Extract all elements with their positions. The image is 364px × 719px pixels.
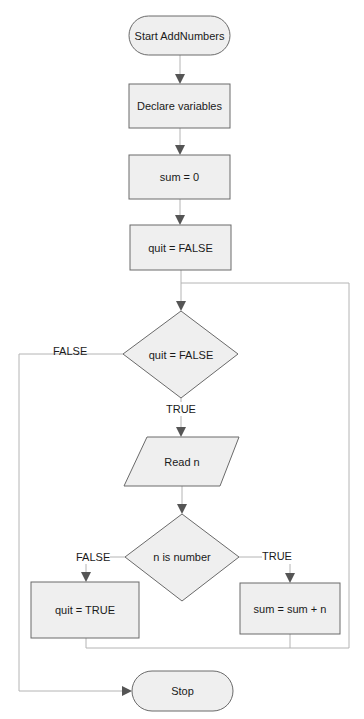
node-label: quit = FALSE xyxy=(149,349,214,361)
node-read-n: Read n xyxy=(124,437,239,486)
node-label: quit = FALSE xyxy=(148,242,213,254)
node-label: Declare variables xyxy=(137,100,222,112)
arrowhead-down-icon xyxy=(175,215,185,225)
edge-label-number-false: FALSE xyxy=(76,551,110,563)
arrowhead-down-icon xyxy=(176,301,186,311)
arrowhead-down-icon xyxy=(175,74,185,84)
node-set-quit: quit = TRUE xyxy=(31,582,139,638)
node-decision-number: n is number xyxy=(125,514,239,601)
node-quit-init: quit = FALSE xyxy=(130,225,231,270)
node-decision-quit: quit = FALSE xyxy=(123,311,238,398)
flowchart-canvas: Start AddNumbers Declare variables sum =… xyxy=(0,0,364,719)
node-label: Read n xyxy=(164,456,199,468)
arrowhead-down-icon xyxy=(176,427,186,437)
node-label: quit = TRUE xyxy=(55,604,115,616)
arrowhead-down-icon xyxy=(81,572,91,582)
arrowhead-right-icon xyxy=(122,686,132,696)
node-start: Start AddNumbers xyxy=(129,16,230,55)
arrowhead-down-icon xyxy=(285,573,295,583)
node-add-sum: sum = sum + n xyxy=(240,583,340,634)
edge-label-number-true: TRUE xyxy=(262,550,292,562)
node-label: n is number xyxy=(153,551,211,563)
node-declare: Declare variables xyxy=(129,84,230,128)
node-stop: Stop xyxy=(132,671,233,711)
node-sum-init: sum = 0 xyxy=(129,155,230,199)
connector-quit-false xyxy=(19,354,125,691)
edge-label-quit-true: TRUE xyxy=(166,403,196,415)
node-label: Stop xyxy=(171,685,194,697)
arrowhead-down-icon xyxy=(177,504,187,514)
node-label: Start AddNumbers xyxy=(135,30,225,42)
node-label: sum = sum + n xyxy=(254,603,327,615)
node-label: sum = 0 xyxy=(160,171,199,183)
arrowhead-down-icon xyxy=(175,145,185,155)
edge-label-quit-false: FALSE xyxy=(53,345,87,357)
